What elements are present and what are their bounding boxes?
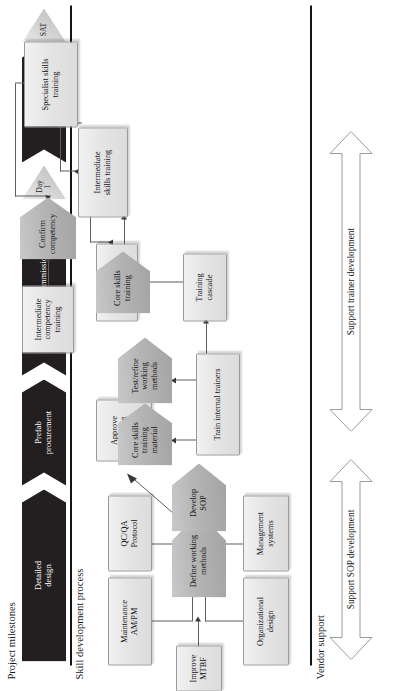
connector-maintenance-down <box>152 620 192 621</box>
milestone-phase-label: Prefab procurement <box>34 402 53 461</box>
connector-improve-mtbf <box>198 619 199 647</box>
vendor-arrow-label: Support SOP development <box>346 509 356 609</box>
node-label: Organizational design <box>256 593 275 648</box>
connector-specialist-left <box>60 123 61 171</box>
vendor-arrow-support-sop-development: Support SOP development <box>326 459 376 659</box>
node-confirm-competency-2[interactable]: Confirm competency <box>20 197 76 259</box>
node-label: Define working methods <box>189 520 208 589</box>
node-qc-qa-protocol[interactable]: QC/QA Protocol <box>108 495 152 571</box>
arrowhead-into-define-working-left <box>195 616 201 621</box>
milestone-phase-prefab-procurement: Prefab procurement <box>22 379 66 485</box>
node-label: Develop SOP <box>189 474 208 519</box>
milestone-marker-sat: SAT <box>22 8 66 42</box>
divider-process-vendor <box>310 5 312 665</box>
vendor-arrow-support-trainer-development: Support trainer development <box>326 131 376 431</box>
node-core-skills-training[interactable]: Core skills training <box>96 251 150 313</box>
node-label: Intermediate competency training <box>34 295 63 343</box>
node-label: Training cascade <box>195 270 214 304</box>
vendor-arrow-label: Support trainer development <box>346 227 356 334</box>
node-core-skills-training-material[interactable]: Core skills training material <box>118 403 172 465</box>
node-label: Management systems <box>256 508 275 557</box>
node-label: QC/QA Protocol <box>120 516 139 550</box>
node-intermediate-skills-training[interactable]: Intermediate skills training <box>78 127 128 217</box>
node-label: Maintenance AM/PM <box>120 597 139 646</box>
node-test-refine-working-methods[interactable]: Test/refine working methods <box>118 337 172 403</box>
project-milestones-label: Project milestones <box>6 602 17 679</box>
connector-train-to-cascade <box>206 321 207 353</box>
node-improve-mtbf[interactable]: Improve MTBF <box>176 645 222 691</box>
node-label: Improve MTBF <box>189 651 208 685</box>
connector-specialist-top-h <box>15 83 16 196</box>
node-label: Core skills training <box>113 256 132 309</box>
node-specialist-skills-training[interactable]: Specialist skills training <box>24 41 78 127</box>
node-label: Intermediate skills training <box>93 146 112 197</box>
node-label: Confirm competency <box>38 199 57 256</box>
skill-development-process-label: Skill development process <box>74 568 85 679</box>
connector-organizational-up <box>205 620 243 621</box>
milestone-marker-label: SAT <box>40 18 48 40</box>
node-maintenance-am-pm[interactable]: Maintenance AM/PM <box>108 577 152 665</box>
node-label: Core skills training material <box>131 408 160 461</box>
milestone-marker-label: Day 1 <box>36 175 52 197</box>
node-label: Test/refine working methods <box>131 344 160 396</box>
milestone-phase-detailed-design: Detailed design <box>22 489 66 661</box>
node-train-internal-trainers[interactable]: Train internal trainers <box>196 353 240 455</box>
connector-interm-comp-to-confirm2 <box>48 259 49 285</box>
connector-train-to-core-material <box>175 439 196 440</box>
node-organizational-design[interactable]: Organizational design <box>243 577 289 665</box>
node-training-cascade[interactable]: Training cascade <box>183 253 227 321</box>
node-label: Train internal trainers <box>213 365 223 443</box>
node-label: Specialist skills training <box>41 55 60 113</box>
node-intermediate-competency-training[interactable]: Intermediate competency training <box>22 285 74 353</box>
node-management-systems[interactable]: Management systems <box>243 495 289 571</box>
milestone-phase-label: Detailed design <box>34 552 53 597</box>
vendor-support-label: Vendor support <box>315 615 326 679</box>
connector-specialist-top-down <box>15 195 48 196</box>
connector-train-to-test-refine <box>175 379 196 380</box>
